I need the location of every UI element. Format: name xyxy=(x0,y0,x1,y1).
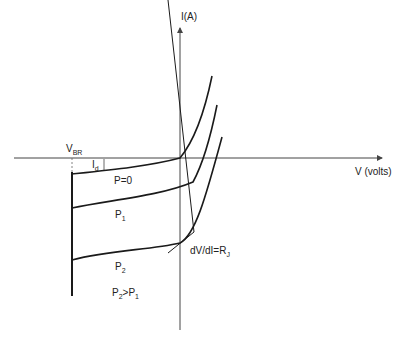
iv-diagram xyxy=(0,0,401,344)
curve-p2-label: P2 xyxy=(115,262,126,274)
curve-p2 xyxy=(72,137,222,260)
tangent-line xyxy=(168,0,194,232)
curve-p1-label: P1 xyxy=(115,210,126,222)
y-axis-label: I(A) xyxy=(181,12,197,22)
tangent-label: dV/dI=RJ xyxy=(190,246,230,258)
curve-p1 xyxy=(72,105,217,208)
x-axis-label: V (volts) xyxy=(355,167,392,177)
id-label: Id xyxy=(92,160,99,172)
condition-label: P2>P1 xyxy=(112,288,139,300)
curve-p0-label: P=0 xyxy=(114,176,132,186)
vbr-label: VBR xyxy=(66,144,82,156)
